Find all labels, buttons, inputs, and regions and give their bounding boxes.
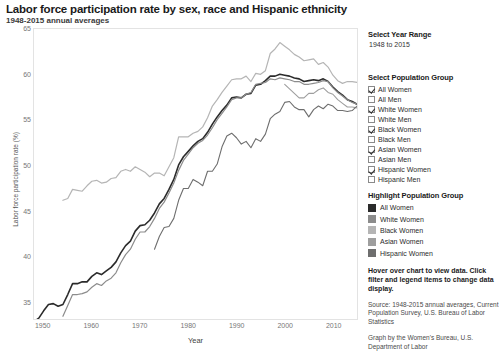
legend-swatch[interactable] (368, 238, 376, 246)
population-group-list: All WomenAll MenWhite WomenWhite MenBlac… (368, 84, 498, 185)
series-line[interactable] (63, 43, 357, 201)
checkbox-checked-icon[interactable] (368, 86, 375, 93)
chart-area: 35404550556065 1950196019701980199020002… (0, 26, 362, 350)
highlight-legend-label: White Women (380, 216, 424, 223)
source-text: Source: 1948-2015 annual averages, Curre… (368, 301, 499, 327)
checkbox-unchecked-icon[interactable] (368, 176, 375, 183)
y-axis-label: Labor force participation rate (%) (12, 95, 19, 265)
y-tick-label: 35 (5, 298, 31, 305)
checkbox-unchecked-icon[interactable] (368, 96, 375, 103)
population-checkbox-label: Asian Women (378, 146, 421, 153)
population-checkbox-row[interactable]: Black Women (368, 124, 498, 134)
highlight-legend-list: All WomenWhite WomenBlack WomenAsian Wom… (368, 202, 498, 259)
highlight-section: Highlight Population Group All WomenWhit… (368, 191, 498, 259)
highlight-legend-label: Black Women (380, 227, 423, 234)
credit-text: Graph by the Women's Bureau, U.S. Depart… (368, 334, 499, 351)
population-checkbox-row[interactable]: Black Men (368, 134, 498, 144)
population-checkbox-label: White Women (378, 106, 422, 113)
x-tick-label: 1980 (180, 322, 196, 329)
x-tick-label: 1970 (132, 322, 148, 329)
highlight-legend-label: Asian Women (380, 238, 423, 245)
population-checkbox-row[interactable]: All Men (368, 94, 498, 104)
legend-swatch[interactable] (368, 226, 376, 234)
y-tick-label: 65 (5, 25, 31, 32)
highlight-heading: Highlight Population Group (368, 191, 498, 200)
population-checkbox-row[interactable]: White Women (368, 104, 498, 114)
checkbox-unchecked-icon[interactable] (368, 116, 375, 123)
control-panel: Select Year Range 1948 to 2015 Select Po… (366, 0, 499, 350)
population-checkbox-label: Hispanic Women (378, 166, 431, 173)
x-tick-label: 1950 (35, 322, 51, 329)
population-checkbox-label: Asian Men (378, 156, 411, 163)
population-checkbox-row[interactable]: Hispanic Women (368, 165, 498, 175)
year-range-value[interactable]: 1948 to 2015 (368, 41, 498, 48)
highlight-legend-row[interactable]: Black Women (368, 225, 498, 236)
series-line[interactable] (63, 78, 357, 316)
page-title: Labor force participation rate by sex, r… (6, 3, 347, 15)
population-checkbox-label: Hispanic Men (378, 176, 420, 183)
series-line[interactable] (285, 84, 357, 108)
plot-frame[interactable] (33, 28, 358, 320)
year-range-section: Select Year Range 1948 to 2015 (368, 30, 498, 48)
legend-swatch[interactable] (368, 249, 376, 257)
y-tick-label: 60 (5, 70, 31, 77)
population-checkbox-row[interactable]: White Men (368, 114, 498, 124)
population-group-section: Select Population Group All WomenAll Men… (368, 73, 498, 185)
checkbox-unchecked-icon[interactable] (368, 156, 375, 163)
highlight-legend-row[interactable]: Hispanic Women (368, 248, 498, 259)
population-checkbox-label: Black Men (378, 136, 411, 143)
x-axis-ticks: 1950196019701980199020002010 (33, 322, 358, 336)
notes-section: Hover over chart to view data. Click fil… (368, 266, 499, 351)
population-checkbox-label: Black Women (378, 126, 421, 133)
x-tick-label: 2010 (326, 322, 342, 329)
series-line[interactable] (34, 74, 357, 319)
highlight-legend-row[interactable]: Asian Women (368, 236, 498, 247)
checkbox-checked-icon[interactable] (368, 126, 375, 133)
checkbox-checked-icon[interactable] (368, 106, 375, 113)
series-line[interactable] (155, 102, 357, 250)
population-checkbox-row[interactable]: Asian Men (368, 155, 498, 165)
population-checkbox-row[interactable]: Asian Women (368, 145, 498, 155)
legend-swatch[interactable] (368, 204, 376, 212)
x-tick-label: 2000 (277, 322, 293, 329)
x-tick-label: 1960 (83, 322, 99, 329)
legend-swatch[interactable] (368, 215, 376, 223)
population-checkbox-label: All Women (378, 86, 412, 93)
population-group-heading: Select Population Group (368, 73, 498, 82)
instructions-text: Hover over chart to view data. Click fil… (368, 266, 499, 294)
population-checkbox-label: White Men (378, 116, 411, 123)
population-checkbox-row[interactable]: All Women (368, 84, 498, 94)
x-tick-label: 1990 (229, 322, 245, 329)
checkbox-unchecked-icon[interactable] (368, 136, 375, 143)
population-checkbox-label: All Men (378, 96, 401, 103)
highlight-legend-label: Hispanic Women (380, 250, 433, 257)
checkbox-checked-icon[interactable] (368, 166, 375, 173)
highlight-legend-label: All Women (380, 204, 414, 211)
highlight-legend-row[interactable]: White Women (368, 213, 498, 224)
population-checkbox-row[interactable]: Hispanic Men (368, 175, 498, 185)
line-series-svg (34, 29, 357, 319)
year-range-heading: Select Year Range (368, 30, 498, 39)
highlight-legend-row[interactable]: All Women (368, 202, 498, 213)
checkbox-checked-icon[interactable] (368, 146, 375, 153)
x-axis-label: Year (33, 336, 358, 345)
